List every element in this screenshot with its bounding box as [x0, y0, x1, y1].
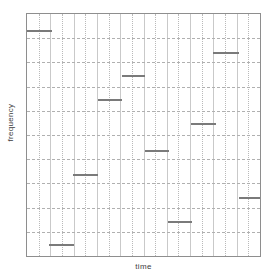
grid-line-vertical-major — [97, 14, 98, 256]
grid-line-vertical-minor — [155, 14, 156, 256]
grid-line-vertical-minor — [85, 14, 86, 256]
grid-line-vertical-minor — [132, 14, 133, 256]
note-bar — [213, 52, 239, 54]
note-bar — [98, 99, 122, 101]
note-bar — [239, 197, 260, 199]
grid-line-vertical-major — [190, 14, 191, 256]
note-bar — [49, 244, 74, 246]
gridlines — [27, 14, 260, 256]
grid-line-vertical-major — [237, 14, 238, 256]
grid-line-horizontal — [27, 111, 260, 112]
grid-line-vertical-minor — [178, 14, 179, 256]
plot-area — [26, 13, 261, 257]
grid-line-vertical-major — [167, 14, 168, 256]
grid-line-vertical-major — [50, 14, 51, 256]
note-bar — [73, 174, 98, 176]
grid-line-vertical-minor — [39, 14, 40, 256]
note-bar — [145, 150, 169, 152]
note-bar — [168, 221, 192, 223]
note-segments — [27, 14, 260, 256]
grid-line-horizontal — [27, 208, 260, 209]
x-axis-label: time — [26, 262, 261, 271]
grid-line-vertical-major — [120, 14, 121, 256]
grid-line-horizontal — [27, 159, 260, 160]
grid-line-vertical-minor — [62, 14, 63, 256]
grid-line-vertical-minor — [109, 14, 110, 256]
grid-line-horizontal — [27, 232, 260, 233]
note-bar — [122, 75, 145, 77]
chart-figure: time frequency — [0, 0, 278, 280]
y-axis-label: frequency — [6, 93, 15, 153]
grid-line-horizontal — [27, 38, 260, 39]
grid-line-vertical-minor — [248, 14, 249, 256]
grid-line-vertical-major — [74, 14, 75, 256]
grid-line-horizontal — [27, 183, 260, 184]
grid-line-vertical-major — [144, 14, 145, 256]
grid-line-vertical-minor — [225, 14, 226, 256]
grid-line-horizontal — [27, 62, 260, 63]
grid-line-vertical-minor — [202, 14, 203, 256]
note-bar — [191, 123, 216, 125]
grid-line-horizontal — [27, 87, 260, 88]
grid-line-vertical-major — [213, 14, 214, 256]
note-bar — [27, 30, 52, 32]
grid-line-horizontal — [27, 135, 260, 136]
